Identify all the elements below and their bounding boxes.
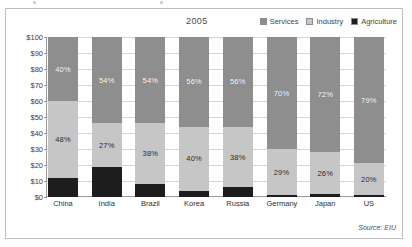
y-tick-label: $70 xyxy=(30,81,43,90)
bar-segment-industry[interactable]: 26% xyxy=(310,152,340,194)
y-tick-label: $30 xyxy=(30,145,43,154)
chart-title: 2005 xyxy=(186,16,208,26)
legend-swatch-icon-services xyxy=(260,18,267,25)
legend-item-industry[interactable]: Industry xyxy=(306,17,343,26)
y-tick-label: $50 xyxy=(30,113,43,122)
bar-segment-agriculture[interactable] xyxy=(135,184,165,197)
bar-segment-label: 26% xyxy=(317,169,333,178)
x-axis-label-brazil: Brazil xyxy=(135,199,165,208)
bar-segment-agriculture[interactable] xyxy=(48,178,78,197)
bar-segment-services[interactable]: 54% xyxy=(135,37,165,123)
x-axis-label-russia: Russia xyxy=(223,199,253,208)
bar-segment-label: 54% xyxy=(143,76,159,85)
bar-segment-label: 54% xyxy=(99,76,115,85)
source-note: Source: EIU xyxy=(358,224,396,231)
y-tick-label: $10 xyxy=(30,177,43,186)
y-tick-label: $0 xyxy=(35,193,43,202)
x-axis-label-germany: Germany xyxy=(267,199,297,208)
bar-segment-services[interactable]: 70% xyxy=(267,37,297,149)
bar-segment-industry[interactable]: 38% xyxy=(223,127,253,188)
bar-column[interactable]: 70%29% xyxy=(267,37,297,197)
bar-segment-agriculture[interactable] xyxy=(310,194,340,197)
legend-label-industry: Industry xyxy=(316,17,343,26)
bar-segment-label: 27% xyxy=(99,141,115,150)
bar-segment-label: 40% xyxy=(186,154,202,163)
bar-column[interactable]: 54%27% xyxy=(92,37,122,197)
bar-segment-industry[interactable]: 48% xyxy=(48,101,78,178)
bar-segment-services[interactable]: 40% xyxy=(48,37,78,101)
bar-segment-agriculture[interactable] xyxy=(267,195,297,197)
y-tick-mark xyxy=(44,197,47,198)
chart-page: 2005 Services Industry Agriculture $100$… xyxy=(0,0,412,247)
y-tick-label: $80 xyxy=(30,65,43,74)
bar-segment-label: 79% xyxy=(361,96,377,105)
bar-segment-industry[interactable]: 40% xyxy=(179,127,209,191)
x-axis-label-india: India xyxy=(92,199,122,208)
y-tick-label: $90 xyxy=(30,49,43,58)
bar-column[interactable]: 79%20% xyxy=(354,37,384,197)
bar-segment-label: 38% xyxy=(143,149,159,158)
bar-segment-label: 20% xyxy=(361,175,377,184)
x-axis-label-china: China xyxy=(48,199,78,208)
bar-column[interactable]: 72%26% xyxy=(310,37,340,197)
bar-segment-agriculture[interactable] xyxy=(179,191,209,197)
bar-segment-services[interactable]: 79% xyxy=(354,37,384,163)
legend-item-agriculture[interactable]: Agriculture xyxy=(351,17,397,26)
bar-segment-agriculture[interactable] xyxy=(223,187,253,197)
x-axis-label-korea: Korea xyxy=(179,199,209,208)
bar-segment-services[interactable]: 56% xyxy=(179,37,209,127)
bar-segment-services[interactable]: 72% xyxy=(310,37,340,152)
bar-segment-services[interactable]: 56% xyxy=(223,37,253,127)
bar-segment-label: 56% xyxy=(230,77,246,86)
legend-swatch-icon-industry xyxy=(306,18,313,25)
bar-segment-label: 48% xyxy=(55,135,71,144)
bar-segment-industry[interactable]: 38% xyxy=(135,123,165,184)
y-tick-label: $40 xyxy=(30,129,43,138)
bar-segment-industry[interactable]: 29% xyxy=(267,149,297,195)
bar-segment-label: 29% xyxy=(274,168,290,177)
bar-column[interactable]: 56%38% xyxy=(223,37,253,197)
bar-column[interactable]: 54%38% xyxy=(135,37,165,197)
chart-legend: Services Industry Agriculture xyxy=(260,17,397,26)
bar-segment-label: 56% xyxy=(186,77,202,86)
bar-segment-label: 40% xyxy=(55,65,71,74)
legend-item-services[interactable]: Services xyxy=(260,17,299,26)
bar-segment-industry[interactable]: 20% xyxy=(354,163,384,195)
bar-group: 40%48%54%27%54%38%56%40%56%38%70%29%72%2… xyxy=(46,37,386,197)
bar-segment-agriculture[interactable] xyxy=(92,167,122,197)
legend-swatch-icon-agriculture xyxy=(351,18,358,25)
x-axis-labels: ChinaIndiaBrazilKoreaRussiaGermanyJapanU… xyxy=(46,199,386,208)
x-axis-label-japan: Japan xyxy=(310,199,340,208)
bar-segment-label: 70% xyxy=(274,89,290,98)
bar-segment-label: 72% xyxy=(317,90,333,99)
bar-segment-services[interactable]: 54% xyxy=(92,37,122,123)
bar-column[interactable]: 40%48% xyxy=(48,37,78,197)
bar-segment-industry[interactable]: 27% xyxy=(92,123,122,166)
scan-artifact-strip xyxy=(0,0,412,7)
plot-area: $100$90$80$70$60$50$40$30$20$10$0 40%48%… xyxy=(46,37,386,197)
bar-segment-agriculture[interactable] xyxy=(354,195,384,197)
legend-label-services: Services xyxy=(270,17,299,26)
y-tick-label: $60 xyxy=(30,97,43,106)
legend-label-agriculture: Agriculture xyxy=(361,17,397,26)
y-tick-label: $100 xyxy=(26,33,43,42)
bar-column[interactable]: 56%40% xyxy=(179,37,209,197)
bar-segment-label: 38% xyxy=(230,153,246,162)
y-tick-label: $20 xyxy=(30,161,43,170)
x-axis-label-us: US xyxy=(354,199,384,208)
